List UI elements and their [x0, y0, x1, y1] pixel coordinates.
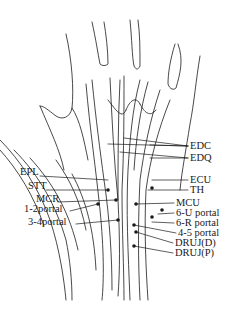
label-3-4-portal: 3-4portal	[28, 217, 67, 227]
label-th: TH	[190, 185, 204, 195]
hand-outline	[40, 20, 200, 190]
label-epl: EPL	[20, 167, 39, 177]
tendons	[0, 76, 170, 300]
label-edq: EDQ	[190, 153, 212, 163]
label-1-2-portal: 1-2portal	[24, 204, 63, 214]
label-stt: STT	[28, 181, 47, 191]
label-druj-p: DRUJ(P)	[175, 248, 214, 258]
label-edc: EDC	[190, 141, 211, 151]
